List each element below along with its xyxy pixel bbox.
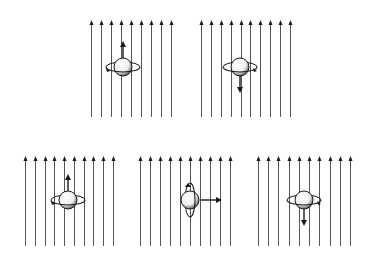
force-arrow-right-icon: [201, 197, 222, 203]
field-arrowhead-icon: [200, 20, 204, 25]
field-arrowhead-icon: [277, 156, 281, 161]
field-arrowhead-icon: [34, 156, 38, 161]
field-arrowhead-icon: [329, 156, 333, 161]
force-arrow-up-icon: [65, 174, 71, 191]
field-arrowhead-icon: [339, 156, 343, 161]
field-arrowhead-icon: [73, 156, 77, 161]
field-arrowhead-icon: [249, 20, 253, 25]
field-arrowhead-icon: [269, 20, 273, 25]
diagram-canvas: [0, 0, 369, 262]
panel-bottom-right: [257, 156, 353, 246]
field-arrowhead-icon: [229, 156, 233, 161]
sphere: [295, 191, 313, 209]
field-arrowhead-icon: [318, 156, 322, 161]
field-arrowhead-icon: [53, 156, 57, 161]
field-arrowhead-icon: [63, 156, 67, 161]
force-arrow-down-icon: [237, 76, 243, 93]
spinning-sphere: [223, 58, 257, 76]
field-arrowhead-icon: [220, 20, 224, 25]
field-arrowhead-icon: [240, 20, 244, 25]
field-arrowhead-icon: [349, 156, 353, 161]
field-arrowhead-icon: [308, 156, 312, 161]
panel-bottom-left: [24, 156, 116, 246]
field-arrowhead-icon: [169, 156, 173, 161]
field-arrowhead-icon: [120, 20, 124, 25]
field-arrowhead-icon: [159, 156, 163, 161]
field-arrowhead-icon: [110, 20, 114, 25]
panel-bottom-middle: [139, 156, 233, 246]
field-arrowhead-icon: [160, 20, 164, 25]
field-arrowhead-icon: [257, 156, 261, 161]
field-arrowhead-icon: [279, 20, 283, 25]
sphere: [114, 58, 132, 76]
force-arrow-down-icon: [301, 209, 307, 226]
field-arrowhead-icon: [102, 156, 106, 161]
field-arrowhead-icon: [100, 20, 104, 25]
panel-top-left: [90, 20, 174, 117]
field-arrowhead-icon: [267, 156, 271, 161]
field-arrowhead-icon: [189, 156, 193, 161]
panel-top-right: [200, 20, 293, 117]
field-arrowhead-icon: [130, 20, 134, 25]
field-arrowhead-icon: [288, 156, 292, 161]
field-arrowhead-icon: [149, 156, 153, 161]
field-arrowhead-icon: [90, 20, 94, 25]
field-arrowhead-icon: [150, 20, 154, 25]
field-arrowhead-icon: [210, 20, 214, 25]
field-arrowhead-icon: [112, 156, 116, 161]
field-arrowhead-icon: [179, 156, 183, 161]
field-arrowhead-icon: [24, 156, 28, 161]
field-arrowhead-icon: [44, 156, 48, 161]
field-arrowhead-icon: [199, 156, 203, 161]
field-arrowhead-icon: [83, 156, 87, 161]
sphere: [231, 58, 249, 76]
field-arrowhead-icon: [209, 156, 213, 161]
spinning-sphere: [287, 191, 321, 209]
spinning-sphere-field-diagram: [0, 0, 369, 262]
field-arrowhead-icon: [92, 156, 96, 161]
sphere: [59, 191, 77, 209]
field-arrowhead-icon: [289, 20, 293, 25]
field-arrowhead-icon: [170, 20, 174, 25]
field-arrowhead-icon: [219, 156, 223, 161]
force-arrow-up-icon: [120, 41, 126, 58]
field-arrowhead-icon: [298, 156, 302, 161]
field-arrowhead-icon: [140, 20, 144, 25]
spinning-sphere: [51, 191, 85, 209]
field-arrowhead-icon: [230, 20, 234, 25]
field-arrowhead-icon: [259, 20, 263, 25]
field-arrowhead-icon: [139, 156, 143, 161]
sphere: [181, 191, 199, 209]
